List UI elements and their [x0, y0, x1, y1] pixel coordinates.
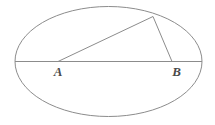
figure-canvas: A B: [0, 0, 215, 125]
point-label-a: A: [53, 64, 63, 79]
geometry-diagram: A B: [0, 0, 215, 125]
point-label-b: B: [171, 64, 181, 79]
segment-a-to-apex: [58, 17, 153, 62]
segment-apex-to-b: [153, 17, 172, 62]
